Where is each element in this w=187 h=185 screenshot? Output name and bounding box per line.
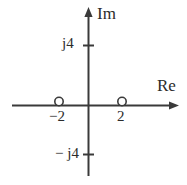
tick-label-j4: j4 <box>62 36 74 51</box>
real-axis-arrowhead <box>169 101 179 109</box>
real-axis-label: Re <box>157 77 176 94</box>
tick-label-minus-2: −2 <box>49 109 65 124</box>
zero-marker-plus-2 <box>118 97 126 105</box>
pole-zero-plot: Im Re j4 − j4 −2 2 <box>0 0 187 185</box>
tick-label-negative-j4: − j4 <box>55 146 79 161</box>
zero-marker-minus-2 <box>55 97 63 105</box>
imaginary-axis-label: Im <box>97 5 116 22</box>
imaginary-axis-arrowhead <box>84 7 92 17</box>
tick-label-plus-2: 2 <box>117 109 125 124</box>
